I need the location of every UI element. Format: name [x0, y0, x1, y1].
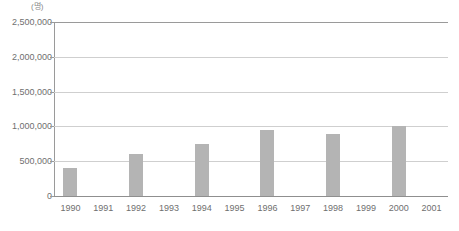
bar	[129, 154, 143, 196]
y-axis-tick-label: 1,500,000	[0, 88, 52, 97]
gridline	[54, 161, 448, 162]
gridline	[54, 92, 448, 93]
gridline	[54, 126, 448, 127]
x-axis-tick-label: 1992	[120, 203, 153, 214]
gridline	[54, 196, 448, 197]
plot-area	[54, 22, 448, 196]
y-axis-tick-group: 0500,0001,000,0001,500,0002,000,0002,500…	[0, 0, 52, 231]
x-axis-tick-label: 1990	[54, 203, 87, 214]
x-axis-tick-label: 1997	[284, 203, 317, 214]
x-axis-tick-label: 1996	[251, 203, 284, 214]
bar	[260, 130, 274, 196]
x-axis-tick-label: 1998	[317, 203, 350, 214]
y-axis-tick-label: 2,000,000	[0, 53, 52, 62]
x-axis-tick-label: 1995	[218, 203, 251, 214]
bar	[195, 144, 209, 196]
gridline	[54, 22, 448, 23]
x-axis-tick-group: 1990199119921993199419951996199719981999…	[54, 203, 448, 219]
y-axis-tick-label: 2,500,000	[0, 18, 52, 27]
x-axis-tick-label: 1994	[185, 203, 218, 214]
y-axis-tick-label: 1,000,000	[0, 122, 52, 131]
y-axis-tick-label: 500,000	[0, 157, 52, 166]
x-axis-tick-label: 1999	[350, 203, 383, 214]
bar	[326, 134, 340, 196]
gridline	[54, 57, 448, 58]
x-axis-tick-label: 1991	[87, 203, 120, 214]
x-axis-tick-label: 2001	[415, 203, 448, 214]
bar	[392, 126, 406, 196]
y-axis-tick-label: 0	[0, 192, 52, 201]
bar-chart: (명) 0500,0001,000,0001,500,0002,000,0002…	[0, 0, 459, 231]
x-axis-tick-label: 2000	[382, 203, 415, 214]
x-axis-tick-label: 1993	[153, 203, 186, 214]
bar	[63, 168, 77, 196]
